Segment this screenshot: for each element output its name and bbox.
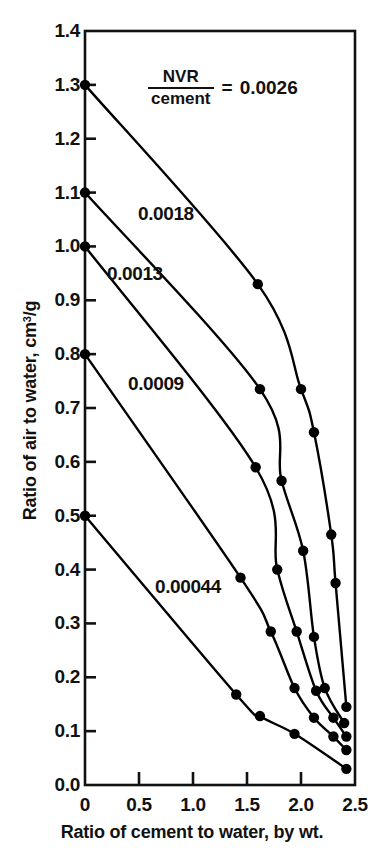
y-tick-label: 0.0 <box>36 775 80 794</box>
x-tick-label: 1.0 <box>163 795 223 814</box>
y-tick-label: 0.4 <box>36 560 80 579</box>
equals-sign: = <box>222 78 233 97</box>
chart-figure: 0.00.10.20.30.40.50.60.70.80.91.01.11.21… <box>0 0 384 859</box>
data-point <box>80 80 90 90</box>
data-point <box>339 718 349 728</box>
data-point <box>289 729 299 739</box>
y-tick-label: 0.8 <box>36 344 80 363</box>
y-tick-label: 1.2 <box>36 129 80 148</box>
data-point <box>309 427 319 437</box>
data-point <box>341 745 351 755</box>
data-point <box>255 384 265 394</box>
annotation-value: 0.0026 <box>240 78 298 97</box>
x-axis-ticks <box>139 772 301 785</box>
x-tick-label: 0.5 <box>109 795 169 814</box>
plot-frame <box>85 31 355 785</box>
data-point <box>309 712 319 722</box>
curve-label-0.00044: 0.00044 <box>155 577 221 596</box>
y-tick-label: 1.1 <box>36 183 80 202</box>
data-point <box>298 546 308 556</box>
curve-label-0.0009: 0.0009 <box>128 374 184 393</box>
data-point <box>272 564 282 574</box>
data-point <box>80 349 90 359</box>
y-tick-label: 0.7 <box>36 398 80 417</box>
x-axis-tick-labels: 00.51.01.52.02.5 <box>0 795 384 821</box>
data-point <box>341 731 351 741</box>
y-axis-title-text-prefix: Ratio of air to water, cm <box>20 322 40 520</box>
fraction-numerator: NVR <box>160 68 202 87</box>
x-tick-label: 2.0 <box>271 795 331 814</box>
data-point <box>266 626 276 636</box>
curve-label-0.0018: 0.0018 <box>138 204 194 223</box>
y-tick-label: 1.0 <box>36 236 80 255</box>
y-tick-label: 1.4 <box>36 21 80 40</box>
data-point <box>296 384 306 394</box>
data-point <box>341 764 351 774</box>
y-tick-label: 0.5 <box>36 506 80 525</box>
data-point <box>231 689 241 699</box>
data-point <box>291 626 301 636</box>
data-point <box>309 632 319 642</box>
data-point <box>253 279 263 289</box>
curve-0.0026 <box>85 85 346 707</box>
x-tick-label: 1.5 <box>217 795 277 814</box>
nvr-cement-fraction: NVR cement <box>148 68 214 108</box>
data-point <box>250 462 260 472</box>
curve-label-0.0013: 0.0013 <box>107 264 163 283</box>
y-tick-label: 0.6 <box>36 452 80 471</box>
curve-0.0013 <box>85 246 346 736</box>
y-tick-label: 0.2 <box>36 667 80 686</box>
y-axis-title-text-suffix: /g <box>20 301 40 317</box>
data-point <box>80 241 90 251</box>
data-point <box>330 578 340 588</box>
y-axis-ticks <box>85 85 96 731</box>
series-annotation-nvr-cement: NVR cement = 0.0026 <box>148 68 298 108</box>
y-tick-label: 1.3 <box>36 75 80 94</box>
data-point <box>80 511 90 521</box>
y-tick-label: 0.1 <box>36 721 80 740</box>
y-tick-label: 0.9 <box>36 290 80 309</box>
y-axis-title: Ratio of air to water, cm3/g <box>20 201 41 621</box>
data-point <box>311 686 321 696</box>
y-axis-title-superscript: 3 <box>21 316 33 322</box>
y-tick-label: 0.3 <box>36 613 80 632</box>
data-point <box>235 572 245 582</box>
data-point <box>328 731 338 741</box>
data-point <box>289 683 299 693</box>
data-point <box>341 702 351 712</box>
data-point <box>328 712 338 722</box>
data-point <box>80 187 90 197</box>
data-point <box>255 711 265 721</box>
data-curves <box>85 85 346 769</box>
x-tick-label: 0 <box>55 795 115 814</box>
data-point <box>326 529 336 539</box>
x-axis-title: Ratio of cement to water, by wt. <box>0 822 384 843</box>
x-tick-label: 2.5 <box>325 795 384 814</box>
data-point <box>276 476 286 486</box>
fraction-denominator: cement <box>148 89 214 108</box>
